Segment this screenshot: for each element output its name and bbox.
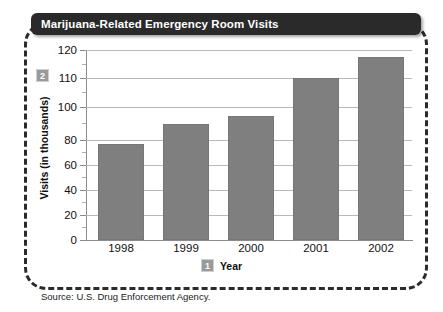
x-tick-label: 1999 [173,242,199,254]
y-tick-minor [82,123,86,124]
y-tick-label: 20 [64,209,77,221]
y-tick-label: 120 [58,44,77,56]
y-tick-major [80,165,86,166]
callout-badge-2: 2 [36,69,49,82]
y-tick-major [80,190,86,191]
figure-container: Marijuana-Related Emergency Room Visits … [0,0,443,312]
y-tick-label: 110 [59,72,77,84]
y-axis-title-text: Visits (in thousands) [38,96,50,199]
y-tick-minor [82,92,86,93]
page-title: Marijuana-Related Emergency Room Visits [31,18,279,30]
x-axis-tick-labels: 19981999200020012002 [86,242,412,258]
bar-2000 [228,116,274,240]
x-tick-label: 2002 [368,242,394,254]
x-axis-title-row: 1 Year [0,259,443,272]
y-tick-major [80,240,86,241]
x-tick-label: 2001 [303,242,329,254]
y-tick-minor [82,227,86,228]
x-tick-label: 1998 [108,242,134,254]
bar-2002 [358,57,404,240]
y-tick-minor [82,152,86,153]
source-note: Source: U.S. Drug Enforcement Agency. [41,291,210,302]
chart-title-bar: Marijuana-Related Emergency Room Visits [31,13,421,35]
y-tick-major [80,107,86,108]
y-tick-label: 60 [64,159,77,171]
y-tick-major [80,78,86,79]
y-tick-minor [82,177,86,178]
y-tick-label: 0 [71,234,77,246]
y-tick-major [80,50,86,51]
y-tick-major [80,140,86,141]
plot-area: 120110100806040200 [86,50,412,240]
y-tick-minor [82,202,86,203]
y-tick-label: 80 [64,134,77,146]
bar-1998 [98,144,144,240]
y-tick-major [80,215,86,216]
y-tick-minor [82,64,86,65]
bar-2001 [293,78,339,240]
callout-badge-1: 1 [201,259,214,272]
x-tick-label: 2000 [238,242,264,254]
x-axis-title-text: Year [220,260,242,272]
y-tick-label: 100 [58,101,77,113]
x-axis-line [86,240,413,241]
bar-1999 [163,124,209,240]
y-tick-label: 40 [64,184,77,196]
y-axis-title: Visits (in thousands) [36,60,52,235]
gridline [86,50,412,51]
